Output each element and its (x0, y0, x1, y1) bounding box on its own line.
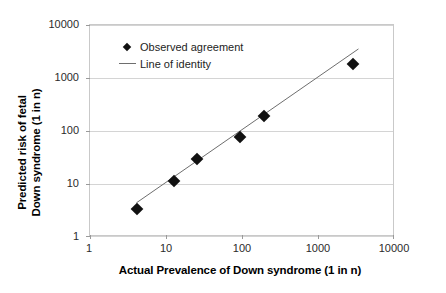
line-marker-icon (114, 63, 140, 64)
x-tick-label-10000: 10000 (359, 243, 429, 254)
x-axis-title: Actual Prevalence of Down syndrome (1 in… (60, 264, 420, 276)
x-tick-1 (90, 235, 91, 239)
x-tick-1000 (318, 235, 319, 239)
x-tick-label-10: 10 (131, 243, 201, 254)
y-tick-label-1: 1 (19, 231, 79, 242)
plot-area: Observed agreement Line of identity (89, 24, 394, 236)
x-tick-label-1: 1 (54, 243, 124, 254)
y-axis-title-line-1: Predicted risk of fetal (15, 93, 29, 212)
y-axis-title: Down syndrome (1 in n) Predicted risk of… (0, 0, 60, 293)
x-tick-100 (242, 235, 243, 239)
x-tick-label-1000: 1000 (283, 243, 353, 254)
y-tick-label-1000: 1000 (19, 72, 79, 83)
y-axis-title-line-2: Down syndrome (1 in n) (29, 86, 43, 218)
chart-legend: Observed agreement Line of identity (114, 38, 284, 72)
y-tick-label-10: 10 (19, 178, 79, 189)
legend-item-line-of-identity: Line of identity (114, 55, 284, 72)
x-tick-10 (166, 235, 167, 239)
legend-label-observed-agreement: Observed agreement (140, 41, 243, 53)
y-tick-label-100: 100 (19, 125, 79, 136)
legend-label-line-of-identity: Line of identity (140, 58, 211, 70)
x-tick-label-100: 100 (207, 243, 277, 254)
y-tick-label-10000: 10000 (19, 19, 79, 30)
x-tick-10000 (393, 235, 394, 239)
legend-item-observed-agreement: Observed agreement (114, 38, 284, 55)
diamond-marker-icon (114, 44, 140, 50)
chart-figure: Down syndrome (1 in n) Predicted risk of… (0, 0, 446, 293)
